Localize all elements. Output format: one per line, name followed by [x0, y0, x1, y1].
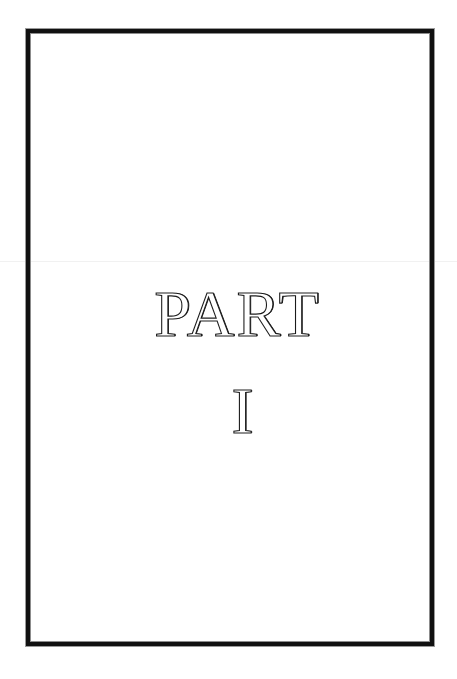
document-page: PART I: [0, 0, 457, 679]
part-heading: PART: [0, 281, 457, 347]
part-number-roman-numeral: I: [0, 378, 457, 444]
